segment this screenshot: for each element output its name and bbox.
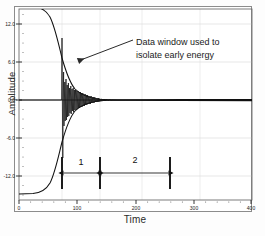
y-axis-title: Amplitude — [6, 52, 17, 136]
y-axis-minor-ticks — [23, 14, 24, 196]
x-tick-label-0: 0 — [9, 206, 29, 211]
x-tick-label-4: 400 — [241, 206, 261, 211]
annotation-line-2: isolate early energy — [136, 49, 254, 62]
annotation-text: Data window used to isolate early energy — [136, 36, 254, 61]
span-label-2: 2 — [128, 155, 142, 165]
y-tick-label-3: -6.0 — [0, 136, 15, 141]
window-envelope-lower — [19, 99, 252, 194]
annotation-arrow — [78, 40, 133, 61]
x-axis-title: Time — [100, 214, 170, 225]
span-label-1: 1 — [74, 157, 88, 167]
y-tick-label-4: -12.0 — [0, 174, 15, 179]
x-tick-label-3: 300 — [184, 206, 204, 211]
annotation-line-1: Data window used to — [136, 36, 254, 49]
x-axis-minor-ticks — [30, 202, 241, 203]
figure-root: 12.0 6.0 0.0 -6.0 -12.0 0 100 200 300 40… — [0, 0, 265, 236]
y-tick-label-0: 12.0 — [0, 22, 15, 27]
x-tick-label-1: 100 — [67, 206, 87, 211]
x-tick-label-2: 200 — [126, 206, 146, 211]
